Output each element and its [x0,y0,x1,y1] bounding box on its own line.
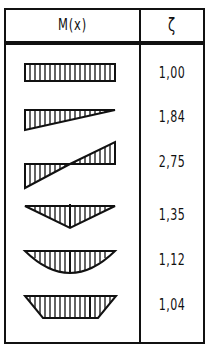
column-divider [139,10,141,342]
moment-factor-table: M(x) ζ 1,00 [4,8,205,344]
zeta-value: 1,12 [147,251,198,269]
linear-moment-triangle-icon [20,106,130,132]
trapezoidal-moment-icon [20,293,130,321]
constant-moment-rectangle-icon [20,62,130,84]
parabolic-uniform-load-moment-icon [20,248,130,276]
zeta-value: 1,84 [147,108,198,126]
header-divider [6,41,203,45]
zeta-value: 1,04 [147,296,198,314]
zeta-value: 1,00 [147,64,198,82]
zeta-value: 1,35 [147,206,198,224]
header-zeta: ζ [146,10,199,41]
header-moment: M(x) [16,10,129,41]
triangular-point-load-moment-icon [20,203,130,231]
antisymmetric-linear-moment-icon [20,140,130,192]
zeta-value: 2,75 [147,153,198,171]
